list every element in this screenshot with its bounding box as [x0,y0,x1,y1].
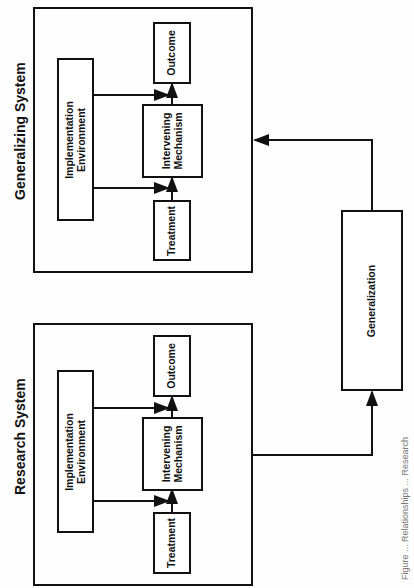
gen-outcome-box: Outcome [153,22,191,84]
gen-implementation-environment-box: ImplementationEnvironment [57,58,94,221]
res-treatment-box: Treatment [153,512,191,574]
gen-intervening-mechanism-box: InterveningMechanism [142,104,203,178]
res-treatment-label: Treatment [166,518,178,568]
research-system-title: Research System [12,378,28,495]
res-outcome-label: Outcome [166,343,178,389]
gen-outcome-label: Outcome [166,30,178,76]
generalizing-system-title: Generalizing System [12,62,28,200]
res-interv-line2: Mechanism [172,425,184,482]
gen-impl-line2: Environment [75,107,87,171]
gen-interv-line1: Intervening [160,113,172,170]
res-implementation-environment-box: ImplementationEnvironment [57,370,94,533]
res-intervening-mechanism-box: InterveningMechanism [142,417,203,491]
res-impl-line2: Environment [75,419,87,483]
gen-treatment-box: Treatment [153,200,191,261]
diagram-canvas: Generalizing System ImplementationEnviro… [0,0,414,588]
res-impl-line1: Implementation [63,413,75,491]
generalization-label: Generalization [366,264,378,336]
generalization-box: Generalization [341,210,403,391]
figure-caption: Figure ... Relationships ... Research [400,437,410,580]
gen-impl-line1: Implementation [63,101,75,179]
gen-interv-line2: Mechanism [172,112,184,169]
res-interv-line1: Intervening [160,426,172,483]
res-outcome-box: Outcome [153,335,191,397]
gen-treatment-label: Treatment [166,205,178,255]
